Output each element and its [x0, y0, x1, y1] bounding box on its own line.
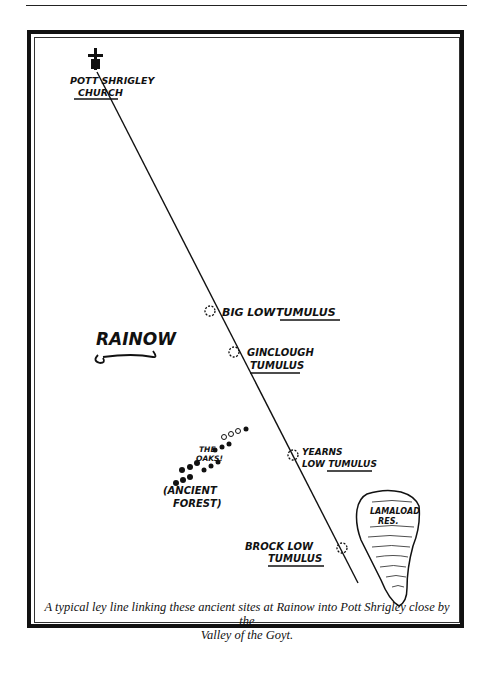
- forest-label-3: (ANCIENT: [163, 485, 218, 496]
- forest-label-1: THE: [199, 445, 216, 454]
- forest-label-4: FOREST): [173, 498, 221, 509]
- rainow-label: RAINOW: [96, 329, 177, 349]
- yearns-low-label-1: YEARNS: [302, 447, 343, 457]
- ginclough-label-2: TUMULUS: [250, 360, 304, 371]
- church-label-line1: POTT SHRIGLEY: [70, 75, 156, 86]
- big-low-tumulus-marker: [205, 306, 215, 316]
- ley-line-map: POTT SHRIGLEY CHURCH BIG LOW TUMULUS GIN…: [0, 0, 491, 675]
- map-caption: A typical ley line linking these ancient…: [36, 600, 458, 642]
- church-label-line2: CHURCH: [78, 87, 123, 98]
- big-low-label-2: TUMULUS: [276, 306, 336, 319]
- reservoir-label-2: RES.: [378, 517, 398, 526]
- reservoir-label-1: LAMALOAD: [370, 507, 420, 516]
- church-cross-icon: [88, 48, 103, 70]
- yearns-low-label-2: LOW TUMULUS: [302, 459, 377, 469]
- ginclough-label-1: GINCLOUGH: [247, 347, 314, 358]
- caption-line2: Valley of the Goyt.: [36, 628, 458, 642]
- big-low-label-1: BIG LOW: [222, 306, 276, 319]
- caption-line1: A typical ley line linking these ancient…: [36, 600, 458, 628]
- rainow-flourish: [95, 351, 155, 363]
- brock-low-label-1: BROCK LOW: [245, 541, 314, 552]
- ley-line: [97, 72, 358, 583]
- forest-label-2: OAKS!: [196, 454, 223, 463]
- brock-low-label-2: TUMULUS: [268, 553, 322, 564]
